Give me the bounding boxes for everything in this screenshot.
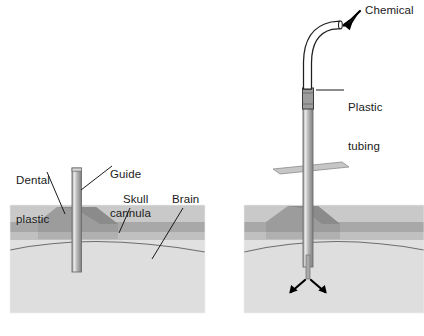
label-brain: Brain bbox=[172, 193, 199, 206]
left-cannula-shaft bbox=[72, 168, 82, 272]
plastic-tubing-body bbox=[304, 21, 341, 89]
right-brain-fill bbox=[244, 241, 424, 313]
label-guide-cannula-line2: cannula bbox=[110, 207, 151, 220]
label-plastic-tubing-line2: tubing bbox=[348, 140, 383, 153]
leader-guide-cannula bbox=[81, 166, 112, 190]
label-plastic-tubing-line1: Plastic bbox=[348, 101, 383, 114]
connector-body bbox=[303, 88, 314, 109]
label-guide-cannula-line1: Guide bbox=[110, 168, 151, 181]
chemical-arrow bbox=[343, 11, 361, 30]
infusion-cannula bbox=[303, 95, 313, 279]
label-plastic-tubing: Plastic tubing bbox=[348, 75, 383, 179]
tubing-connector bbox=[303, 88, 314, 109]
brain-cannula-diagram: Dental plastic Guide cannula Skull Brain… bbox=[0, 0, 424, 336]
right-tissue-block bbox=[244, 205, 424, 313]
label-dental-plastic: Dental plastic bbox=[16, 148, 50, 252]
label-chemical: Chemical bbox=[365, 4, 414, 17]
left-brain-fill bbox=[10, 241, 205, 313]
infusion-needle-tip bbox=[306, 255, 310, 279]
plastic-tubing-tip-bore bbox=[339, 21, 343, 29]
label-dental-plastic-line1: Dental bbox=[16, 174, 50, 187]
infusion-cannula-shaft bbox=[303, 95, 313, 267]
left-guide-cannula bbox=[72, 168, 82, 272]
label-dental-plastic-line2: plastic bbox=[16, 213, 50, 226]
label-skull: Skull bbox=[123, 193, 148, 206]
plastic-tubing bbox=[304, 21, 343, 89]
left-cannula-top-rim bbox=[72, 168, 82, 171]
